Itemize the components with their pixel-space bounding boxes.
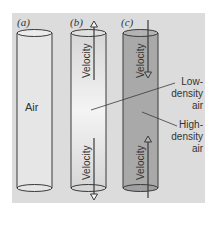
velocity-label-c-top: Velocity — [135, 44, 146, 78]
high-density-annotation: High- density air — [165, 119, 203, 155]
cylinder-c: Velocity Velocity — [123, 20, 158, 198]
low-density-annotation: Low- density air — [165, 76, 203, 112]
velocity-label-c-bottom: Velocity — [135, 146, 146, 180]
cylinder-b: Velocity Velocity — [71, 21, 106, 200]
velocity-label-b-bottom: Velocity — [81, 146, 92, 180]
air-label: Air — [25, 101, 38, 113]
velocity-label-b-top: Velocity — [81, 44, 92, 78]
